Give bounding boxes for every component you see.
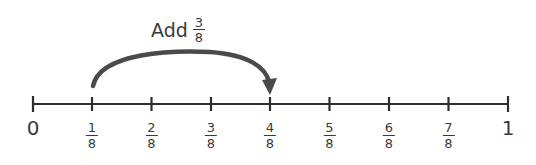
- numerator: 5: [323, 121, 335, 136]
- denominator: 8: [325, 136, 333, 151]
- denominator: 8: [444, 136, 452, 151]
- jump-arc: [93, 51, 277, 95]
- label-5-8: 5 8: [323, 121, 335, 151]
- operation-denominator: 8: [195, 30, 203, 44]
- arc-path: [93, 51, 269, 86]
- arrowhead-icon: [262, 78, 277, 95]
- numerator: 4: [264, 121, 276, 136]
- denominator: 8: [147, 136, 155, 151]
- label-3-8: 3 8: [205, 121, 217, 151]
- label-7-8: 7 8: [442, 121, 454, 151]
- operation-numerator: 3: [193, 16, 205, 30]
- denominator: 8: [385, 136, 393, 151]
- label-6-8: 6 8: [383, 121, 395, 151]
- label-2-8: 2 8: [145, 121, 157, 151]
- number-line: [33, 96, 508, 112]
- numerator: 6: [383, 121, 395, 136]
- operation-fraction: 3 8: [193, 16, 205, 44]
- operation-label: Add 3 8: [151, 16, 205, 44]
- denominator: 8: [88, 136, 96, 151]
- numerator: 1: [86, 121, 98, 136]
- operation-verb: Add: [151, 19, 188, 41]
- numerator: 2: [145, 121, 157, 136]
- numerator: 3: [205, 121, 217, 136]
- denominator: 8: [207, 136, 215, 151]
- label-1-8: 1 8: [86, 121, 98, 151]
- label-4-8: 4 8: [264, 121, 276, 151]
- denominator: 8: [266, 136, 274, 151]
- numerator: 7: [442, 121, 454, 136]
- label-1: 1: [502, 117, 515, 139]
- label-0: 0: [27, 117, 40, 139]
